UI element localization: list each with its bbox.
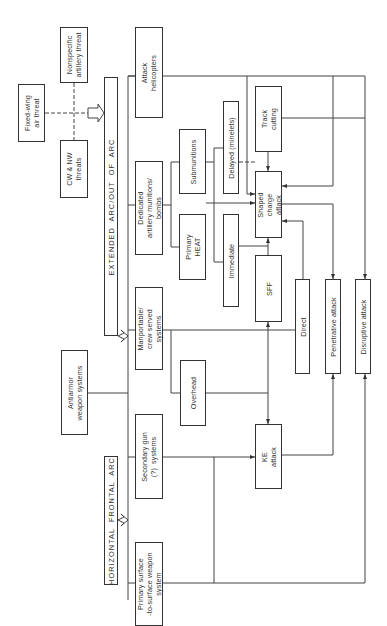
manportable-box: Manportable/ crew served systems: [135, 287, 163, 370]
horizontal-arc-bar: HORIZONTAL FRONTAL ARC: [104, 456, 118, 585]
antiarmor-label: Antiarmor weapon systems: [66, 365, 84, 420]
primary-heat-box: Primary HEAT: [179, 214, 206, 280]
direct-box: Direct: [295, 279, 310, 374]
primary-heat-label: Primary HEAT: [184, 234, 202, 259]
sff-box: SFF: [255, 255, 282, 322]
horizontal-arc-label: HORIZONTAL FRONTAL ARC: [107, 457, 116, 585]
primary-surface-label: Primary surface -to-surface weapon syste…: [136, 552, 163, 615]
attack-helicopters-box: Attack helicopters: [135, 27, 163, 118]
penetrative-label: Penetrative attack: [329, 297, 338, 356]
nonspecific-label: Nonspecific artillery threat: [65, 32, 83, 77]
track-cutting-label: Track cutting: [260, 108, 278, 130]
fixed-wing-threat-box: Fixed-wing air threat: [18, 84, 45, 142]
ke-attack-box: KE attack: [255, 424, 282, 489]
nonspecific-artillery-box: Nonspecific artillery threat: [60, 27, 88, 83]
direct-label: Direct: [298, 317, 307, 336]
extended-arc-label: EXTENDED ARC/OUT OF ARC: [107, 138, 116, 275]
shaped-charge-label: Shaped charge attack: [255, 192, 282, 217]
dedicated-artillery-label: Dedicated artillery munitions/ bombs: [136, 178, 163, 238]
immediate-label: Immediate: [227, 243, 236, 277]
sff-label: SFF: [264, 282, 273, 296]
penetrative-attack-box: Penetrative attack: [325, 279, 341, 374]
overhead-label: Overhead: [189, 377, 198, 409]
overhead-box: Overhead: [180, 360, 206, 426]
secondary-gun-label: Secondary gun (?) systems: [140, 432, 158, 482]
disruptive-label: Disruptive attack: [359, 299, 368, 354]
antiarmor-systems-box: Antiarmor weapon systems: [61, 350, 88, 435]
extended-arc-bar: EXTENDED ARC/OUT OF ARC: [104, 77, 118, 336]
delayed-label: Delayed (minelets): [227, 117, 236, 179]
ke-attack-label: KE attack: [260, 447, 278, 467]
track-cutting-box: Track cutting: [255, 86, 282, 152]
attack-helicopters-label: Attack helicopters: [140, 55, 158, 91]
submunitions-box: Submunitions: [179, 129, 206, 194]
cw-nw-label: CW & NW threats: [65, 152, 83, 185]
immediate-box: Immediate: [223, 214, 239, 307]
antiarmor-threat-diagram: Fixed-wing air threat CW & NW threats No…: [0, 0, 387, 626]
delayed-box: Delayed (minelets): [223, 101, 239, 194]
submunitions-label: Submunitions: [188, 139, 197, 184]
dedicated-artillery-box: Dedicated artillery munitions/ bombs: [135, 161, 163, 255]
manportable-label: Manportable/ crew served systems: [136, 307, 163, 350]
cw-nw-threat-box: CW & NW threats: [60, 140, 88, 198]
secondary-gun-box: Secondary gun (?) systems: [135, 414, 163, 499]
primary-surface-box: Primary surface -to-surface weapon syste…: [135, 542, 163, 626]
fixed-wing-label: Fixed-wing air threat: [23, 95, 41, 131]
shaped-charge-box: Shaped charge attack: [255, 171, 282, 238]
threat-arrow: [88, 104, 104, 122]
disruptive-attack-box: Disruptive attack: [355, 279, 371, 374]
